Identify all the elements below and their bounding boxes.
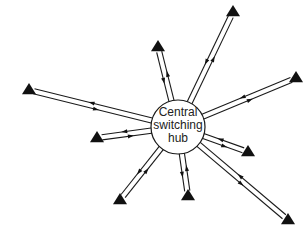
terminal-node-triangle-icon: [281, 213, 295, 224]
direction-arrow-icon: [161, 77, 165, 83]
spoke-right: [200, 71, 303, 120]
direction-arrow-icon: [185, 165, 189, 171]
terminal-node-triangle-icon: [181, 189, 195, 200]
terminal-node-triangle-icon: [289, 71, 303, 82]
star-network-diagram: Central switching hub: [0, 0, 303, 230]
direction-arrow-icon: [240, 94, 246, 98]
direction-arrow-icon: [93, 107, 99, 111]
terminal-node-triangle-icon: [151, 40, 165, 51]
central-hub: Central switching hub: [151, 100, 205, 154]
direction-arrow-icon: [166, 71, 170, 77]
hub-label-line-1: Central: [159, 105, 198, 119]
direction-arrow-icon: [221, 143, 227, 147]
terminal-node-triangle-icon: [90, 131, 104, 142]
hub-label-line-2: switching: [153, 118, 202, 132]
terminal-node-triangle-icon: [226, 5, 240, 16]
direction-arrow-icon: [218, 138, 224, 142]
spoke-bottom: [179, 151, 195, 200]
direction-arrow-icon: [89, 102, 95, 106]
direction-arrow-icon: [210, 56, 214, 62]
terminal-node-triangle-icon: [241, 145, 255, 156]
hub-label-line-3: hub: [168, 131, 188, 145]
spoke-bottom-left: [113, 145, 164, 204]
direction-arrow-icon: [180, 171, 184, 177]
spoke-right-lower: [201, 133, 255, 156]
spoke-left-long: [22, 83, 154, 123]
spoke-top-right: [186, 5, 240, 106]
terminal-node-triangle-icon: [22, 83, 36, 94]
direction-arrow-icon: [128, 134, 134, 138]
spoke-left-short: [90, 128, 154, 142]
direction-arrow-icon: [246, 99, 252, 103]
direction-arrow-icon: [205, 58, 209, 64]
spoke-top-left: [151, 40, 174, 103]
terminal-node-triangle-icon: [113, 193, 127, 204]
direction-arrow-icon: [121, 129, 127, 133]
